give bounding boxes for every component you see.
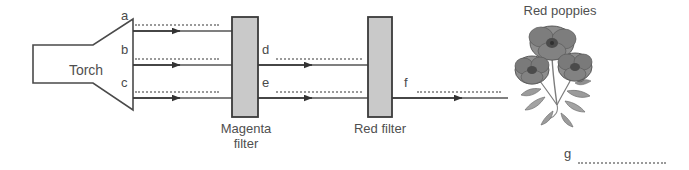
answer-blank-a[interactable] [135, 22, 219, 26]
ray-label-g: g [564, 146, 571, 161]
diagram-canvas: Torch Magentafilter Red filter Red poppi… [0, 0, 689, 170]
answer-blank-e[interactable] [276, 89, 362, 93]
magenta-filter-shape [232, 17, 258, 117]
ray-label-b: b [121, 42, 128, 57]
answer-blank-c[interactable] [135, 89, 219, 93]
ray-label-e: e [262, 75, 269, 90]
magenta-filter-label-line1: Magenta [221, 121, 272, 136]
poppy-flowers-illustration [515, 26, 592, 127]
torch-label: Torch [47, 62, 125, 78]
magenta-filter-label: Magentafilter [196, 122, 296, 152]
ray-label-d: d [262, 42, 269, 57]
optics-ray-diagram [0, 0, 689, 170]
answer-blank-g[interactable] [578, 160, 666, 164]
answer-blank-d[interactable] [276, 56, 362, 60]
red-poppies-label: Red poppies [505, 4, 615, 19]
ray-label-f: f [404, 75, 408, 90]
ray-label-a: a [121, 8, 128, 23]
answer-blank-b[interactable] [135, 56, 219, 60]
magenta-filter-label-line2: filter [234, 136, 259, 151]
ray-label-c: c [121, 75, 128, 90]
red-filter-shape [368, 17, 392, 117]
ray-group-magenta-to-red [258, 65, 368, 98]
red-filter-label: Red filter [330, 122, 430, 137]
ray-group-torch-to-magenta [133, 31, 232, 98]
answer-blank-f[interactable] [417, 89, 501, 93]
